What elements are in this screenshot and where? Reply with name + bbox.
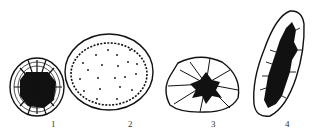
figure-label-4: 4 bbox=[285, 119, 290, 129]
specimen-2 bbox=[65, 34, 153, 110]
figure-label-3: 3 bbox=[211, 119, 216, 129]
specimen-4 bbox=[254, 11, 304, 116]
figure-label-1: 1 bbox=[51, 119, 56, 129]
specimen-3 bbox=[166, 57, 239, 112]
figure-illustration bbox=[0, 0, 313, 140]
figure-label-2: 2 bbox=[128, 119, 133, 129]
specimen-1 bbox=[10, 58, 64, 116]
